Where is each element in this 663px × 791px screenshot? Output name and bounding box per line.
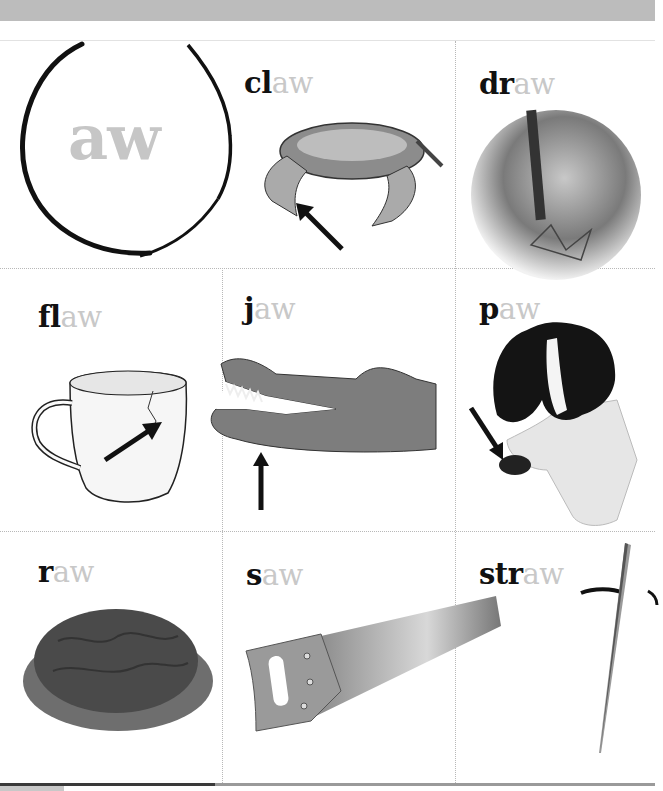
card-raw[interactable]: raw [0, 531, 222, 783]
bottom-bar [0, 783, 655, 786]
crocodile-icon [206, 354, 436, 464]
bottom-tab [0, 786, 64, 791]
word-draw: draw [479, 70, 555, 99]
word-jaw: jaw [244, 295, 295, 324]
word-raw: raw [38, 558, 94, 587]
card-straw[interactable]: straw [455, 531, 655, 783]
word-claw: claw [244, 69, 313, 98]
drawing-hand-icon [471, 110, 651, 280]
arrow-icon [100, 418, 170, 468]
word-saw: saw [246, 561, 303, 590]
card-flaw[interactable]: flaw [0, 268, 222, 531]
word-straw: straw [479, 560, 564, 589]
card-claw[interactable]: claw [222, 41, 455, 268]
title-card-label: aw [68, 101, 160, 174]
card-jaw[interactable]: jaw [222, 268, 455, 531]
dog-icon [487, 320, 657, 530]
raw-meat-icon [18, 601, 218, 741]
arrow-icon [467, 404, 507, 464]
card-draw[interactable]: draw [455, 41, 655, 268]
card-saw[interactable]: saw [222, 531, 455, 783]
top-bar [0, 0, 655, 21]
straw-icon [573, 543, 663, 763]
word-flaw: flaw [38, 303, 102, 332]
arrow-icon [292, 199, 352, 259]
title-card: aw [0, 41, 240, 268]
arrow-icon [251, 452, 271, 512]
card-paw[interactable]: paw [455, 268, 655, 531]
